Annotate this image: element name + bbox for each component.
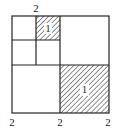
top-label: 2 (33, 2, 39, 14)
small-square-label: 1 (45, 22, 51, 34)
bottom-label-left: 2 (9, 116, 15, 128)
bottom-label-right: 2 (105, 116, 111, 128)
large-square-label: 1 (82, 83, 88, 95)
bottom-label-middle: 2 (57, 116, 63, 128)
subdivided-square-diagram: 2 1 1 2 2 2 (0, 0, 120, 133)
